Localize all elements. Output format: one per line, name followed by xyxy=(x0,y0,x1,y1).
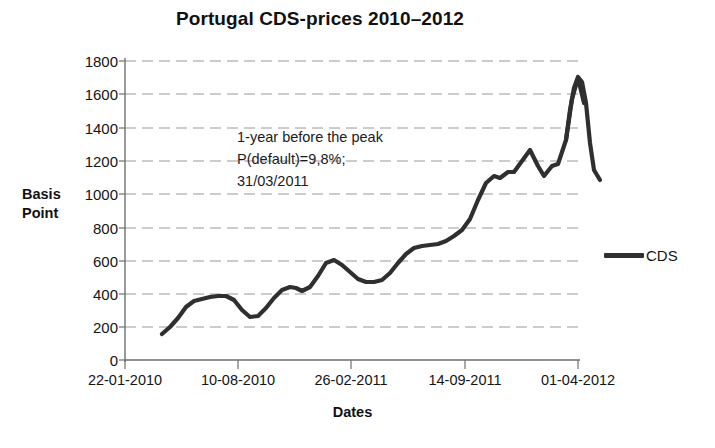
peak-annotation-line-3: 31/03/2011 xyxy=(237,170,383,192)
chart-legend: CDS xyxy=(604,247,678,264)
gridlines xyxy=(125,61,580,327)
chart-container: Portugal CDS-prices 2010–2012 Basis Poin… xyxy=(0,0,715,448)
peak-annotation-line-1: 1-year before the peak xyxy=(237,126,383,148)
x-tick-label: 01-04-2012 xyxy=(541,372,615,388)
x-axis-title: Dates xyxy=(125,404,580,420)
x-tick-label: 22-01-2010 xyxy=(88,372,162,388)
legend-label-cds: CDS xyxy=(646,247,678,264)
x-tick-label: 10-08-2010 xyxy=(201,372,275,388)
x-tick-label: 26-02-2011 xyxy=(314,372,387,388)
x-tick-label: 14-09-2011 xyxy=(428,372,501,388)
peak-annotation: 1-year before the peak P(default)=9,8%; … xyxy=(237,126,383,192)
cds-data-line xyxy=(162,78,584,334)
x-tick-marks xyxy=(125,360,578,369)
peak-annotation-line-2: P(default)=9,8%; xyxy=(237,148,383,170)
y-tick-marks xyxy=(119,61,125,360)
legend-line-swatch-cds xyxy=(604,253,644,258)
